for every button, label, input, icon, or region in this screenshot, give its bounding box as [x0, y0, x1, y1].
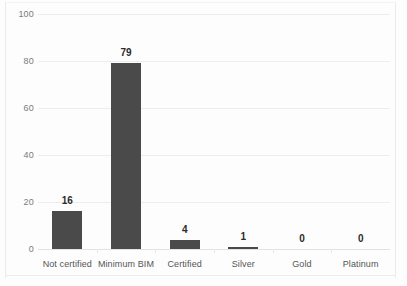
plot-bars-area: 16Not certified79Minimum BIM4Certified1S… — [0, 0, 407, 286]
x-axis-category-label: Platinum — [331, 259, 390, 269]
x-axis-category-label: Silver — [214, 259, 273, 269]
x-axis-tick-mark — [214, 249, 215, 253]
bar-value-label: 0 — [336, 234, 386, 244]
x-axis-tick-mark — [331, 249, 332, 253]
bar[interactable] — [52, 211, 82, 249]
bar-value-label: 1 — [218, 232, 268, 242]
bar-value-label: 0 — [277, 234, 327, 244]
bar-value-label: 79 — [101, 48, 151, 58]
bar-value-label: 16 — [42, 196, 92, 206]
x-axis-category-label: Minimum BIM — [97, 259, 156, 269]
x-axis-tick-mark — [273, 249, 274, 253]
bar-chart: 020406080100 16Not certified79Minimum BI… — [0, 0, 407, 286]
bar-value-label: 4 — [160, 225, 210, 235]
x-axis-tick-mark — [155, 249, 156, 253]
x-axis-tick-mark — [97, 249, 98, 253]
x-axis-category-label: Certified — [155, 259, 214, 269]
x-axis-category-label: Not certified — [38, 259, 97, 269]
x-axis-category-label: Gold — [273, 259, 332, 269]
bar[interactable] — [228, 247, 258, 249]
bar[interactable] — [111, 63, 141, 249]
bar[interactable] — [170, 240, 200, 249]
